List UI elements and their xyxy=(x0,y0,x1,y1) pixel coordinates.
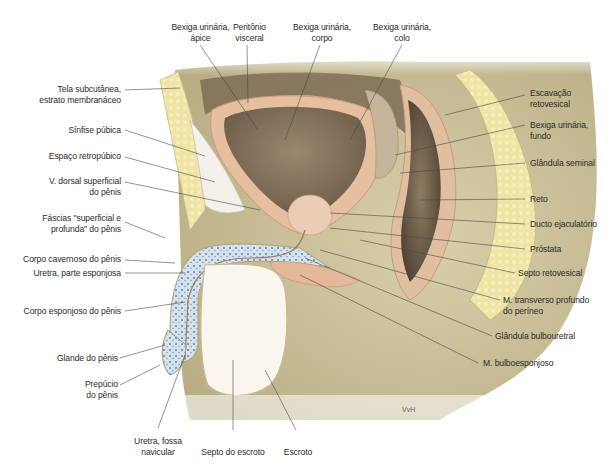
label-tela-subcutanea: Tela subcutânea,estrato membranáceo xyxy=(0,84,121,106)
label-bexiga-fundo: Bexiga urinária,fundo xyxy=(530,120,613,142)
label-bexiga-corpo: Bexiga urinária,corpo xyxy=(277,22,367,44)
label-prepucio: Prepúciodo pênis xyxy=(0,379,118,401)
label-reto: Reto xyxy=(530,194,613,205)
label-espaco-retropubico: Espaço retropúbico xyxy=(0,151,121,162)
label-septo-retovesical: Septo retovesical xyxy=(518,268,613,279)
label-corpo-cavernoso: Corpo cavernoso do pênis xyxy=(0,254,121,265)
label-septo-escroto: Septo do escroto xyxy=(193,447,273,458)
label-escavacao-retovesical: Escavaçãoretovesical xyxy=(530,88,613,110)
label-uretra-esponjosa: Uretra, parte esponjosa xyxy=(0,268,121,279)
label-bexiga-colo: Bexiga urinária,colo xyxy=(357,22,447,44)
label-prostata: Próstata xyxy=(530,244,613,255)
label-sinfise-pubica: Sínfise púbica xyxy=(0,125,121,136)
scrotum xyxy=(201,264,287,395)
label-fascias-penis: Fáscias "superficial eprofunda" do pênis xyxy=(0,213,121,235)
label-uretra-fossa-navicular: Uretra, fossanavicular xyxy=(118,436,198,458)
label-peritonio-visceral: Peritôniovisceral xyxy=(222,22,277,44)
label-m-bulboesponjoso: M. bulboesponjoso xyxy=(483,358,603,369)
label-glandula-bulbouretral: Glândula bulbouretral xyxy=(495,331,613,342)
label-ducto-ejaculatorio: Ducto ejaculatório xyxy=(530,219,613,230)
label-glande: Glande do pênis xyxy=(0,353,118,364)
anatomy-illustration: VvH xyxy=(0,0,613,474)
label-corpo-esponjoso: Corpo esponjoso do pênis xyxy=(0,306,121,317)
artist-signature: VvH xyxy=(402,406,415,413)
label-glandula-seminal: Glândula seminal xyxy=(530,158,613,169)
prostate xyxy=(288,195,332,235)
anatomy-figure: VvH Bexiga urinária,ápice Peritôniovisce… xyxy=(0,0,613,474)
label-m-transverso-profundo: M. transverso profundodo períneo xyxy=(503,295,613,317)
label-escroto: Escroto xyxy=(278,447,318,458)
label-v-dorsal-superficial: V. dorsal superficialdo pênis xyxy=(0,176,121,198)
